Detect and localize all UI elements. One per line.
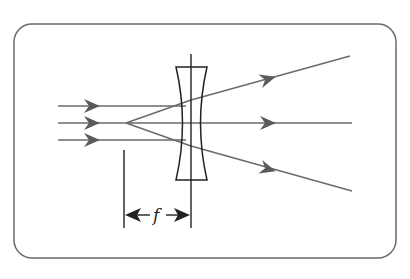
incoming-rays [58, 106, 186, 140]
outgoing-arrowheads [258, 70, 277, 178]
focal-length-label: f [151, 205, 162, 225]
lens-diagram: f [0, 0, 410, 279]
